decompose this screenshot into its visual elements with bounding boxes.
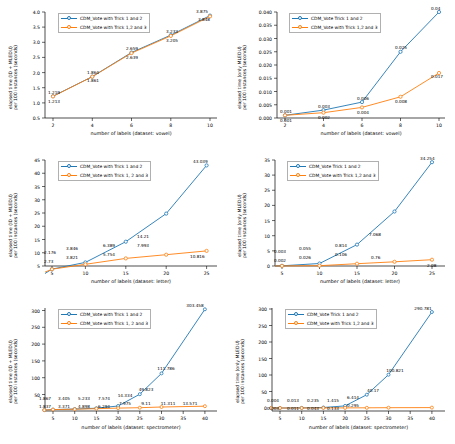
svg-text:2: 2 xyxy=(284,123,287,128)
svg-text:35: 35 xyxy=(407,416,413,421)
legend-line-icon xyxy=(290,166,306,167)
svg-text:25: 25 xyxy=(364,416,370,421)
legend-entry: CDM_Vote with Trick 1 and 2 xyxy=(59,310,150,319)
svg-text:15: 15 xyxy=(320,416,326,421)
point-label: 0.008 xyxy=(395,99,407,104)
svg-text:100: 100 xyxy=(31,376,40,381)
point-label: 13.571 xyxy=(183,401,198,406)
point-label: 11.311 xyxy=(161,401,176,406)
svg-text:300: 300 xyxy=(258,307,267,312)
svg-text:15: 15 xyxy=(123,271,129,276)
point-label: 3.846 xyxy=(66,246,78,251)
point-label: 2.659 xyxy=(126,46,138,51)
point-label: 3.405 xyxy=(58,396,70,401)
svg-text:6: 6 xyxy=(361,123,364,128)
point-label: 1.415 xyxy=(327,398,339,403)
svg-text:0.030: 0.030 xyxy=(259,37,272,42)
svg-text:4.0: 4.0 xyxy=(33,10,40,15)
svg-text:4: 4 xyxy=(322,123,325,128)
point-label: 1.219 xyxy=(48,90,60,95)
svg-text:1.5: 1.5 xyxy=(33,86,40,91)
point-label: 2.73 xyxy=(44,259,54,264)
svg-text:0.010: 0.010 xyxy=(259,90,272,95)
point-label: 14.334 xyxy=(118,393,133,398)
svg-text:200: 200 xyxy=(258,340,267,345)
svg-text:5: 5 xyxy=(279,416,282,421)
point-label: 3.205 xyxy=(166,38,178,43)
legend-label: CDM_Vote with Trick 1 and 2 xyxy=(80,164,142,169)
legend-5: CDM_Vote Trick 1 and 2 CDM_Vote with Tri… xyxy=(285,309,377,329)
svg-text:250: 250 xyxy=(31,325,40,330)
point-label: 49.823 xyxy=(139,387,154,392)
x-axis-label: number of labels (dataset: vowel) xyxy=(277,131,445,136)
point-label: 7.574 xyxy=(98,396,110,401)
legend-label: CDM_Vote with Trick 1,2 and 3 xyxy=(80,25,147,30)
point-label: 2.639 xyxy=(126,55,138,60)
point-label: 0.235 xyxy=(307,398,319,403)
legend-entry: CDM_Vote with Trick 1,2 and 3 xyxy=(290,23,380,32)
legend-line-icon xyxy=(292,18,308,19)
svg-text:35: 35 xyxy=(34,185,40,190)
y-axis-label: elapsed time (only MLEDU) per 100 instan… xyxy=(235,339,246,404)
legend-label: CDM_Vote with Trick 1 and 2 xyxy=(80,312,142,317)
svg-text:4: 4 xyxy=(91,123,94,128)
point-label: 0.001 xyxy=(280,109,292,114)
legend-label: CDM_Vote with Trick 1 and 2 xyxy=(80,16,142,21)
svg-text:8: 8 xyxy=(169,123,172,128)
point-label: 34.254 xyxy=(420,156,435,161)
svg-text:40: 40 xyxy=(429,416,435,421)
svg-text:10: 10 xyxy=(317,271,323,276)
svg-text:10: 10 xyxy=(264,234,270,239)
legend-3: CDM_Vote Trick 1 and 2 CDM_Vote with Tri… xyxy=(287,161,379,181)
point-label: 0.026 xyxy=(299,255,311,260)
point-label: 1.861 xyxy=(87,78,99,83)
svg-text:20: 20 xyxy=(163,271,169,276)
legend-line-icon xyxy=(288,314,304,315)
svg-text:45: 45 xyxy=(34,158,40,163)
legend-entry: CDM_Vote with Trick 1, 2 and 3 xyxy=(59,171,150,180)
point-label: 0.295 xyxy=(347,403,359,408)
svg-text:100: 100 xyxy=(258,373,267,378)
point-label: 0.013 xyxy=(287,398,299,403)
svg-text:5: 5 xyxy=(267,249,270,254)
legend-label: CDM_Vote with Trick 1,2 and 3 xyxy=(309,173,376,178)
svg-text:20: 20 xyxy=(264,203,270,208)
svg-text:10: 10 xyxy=(72,416,78,421)
legend-entry: CDM_Vote Trick 1 and 2 xyxy=(288,162,378,171)
svg-text:0.020: 0.020 xyxy=(259,63,272,68)
svg-text:1.0: 1.0 xyxy=(33,101,40,106)
point-label: 0.814 xyxy=(335,243,347,248)
legend-label: CDM_Vote with Trick 1,2 and 3 xyxy=(307,321,374,326)
svg-text:0.025: 0.025 xyxy=(259,50,272,55)
svg-text:20: 20 xyxy=(115,416,121,421)
panel-vowel-elapsed-total: 0.51.01.5 2.02.53.0 3.54.0 246 810 1.219… xyxy=(0,0,227,148)
svg-text:5: 5 xyxy=(52,416,55,421)
legend-entry: CDM_Vote with Trick 1 and 2 xyxy=(59,14,149,23)
legend-label: CDM_Vote with Trick 1, 2 and 3 xyxy=(80,173,148,178)
panel-spectrometer-elapsed-total: 50100150 200250300 51015 202530 3540 xyxy=(0,296,227,444)
legend-line-icon xyxy=(288,323,304,324)
svg-text:10: 10 xyxy=(82,271,88,276)
y-axis-label: elapsed time (ID + MLEDU) per 100 instan… xyxy=(8,45,19,110)
point-label: 3.875 xyxy=(196,9,208,14)
svg-text:250: 250 xyxy=(258,324,267,329)
svg-text:200: 200 xyxy=(31,342,40,347)
svg-text:300: 300 xyxy=(31,309,40,314)
svg-text:20: 20 xyxy=(392,271,398,276)
point-label: 0.055 xyxy=(299,246,311,251)
point-label: 6.414 xyxy=(347,395,359,400)
svg-text:25: 25 xyxy=(264,188,270,193)
legend-entry: CDM_Vote Trick 1 and 2 xyxy=(290,14,380,23)
point-label: 290.781 xyxy=(414,306,432,311)
point-label: 111.786 xyxy=(157,366,175,371)
x-axis-label: number of labels (dataset: letter) xyxy=(275,279,445,284)
legend-line-icon xyxy=(61,175,77,176)
legend-line-icon xyxy=(290,175,306,176)
point-label: 0.004 xyxy=(357,110,369,115)
point-label: 7.975 xyxy=(119,401,131,406)
point-label: 0.001 xyxy=(280,118,292,123)
point-label: 40.17 xyxy=(367,388,379,393)
svg-text:15: 15 xyxy=(264,219,270,224)
svg-text:10: 10 xyxy=(207,123,213,128)
legend-0: CDM_Vote with Trick 1 and 2 CDM_Vote wit… xyxy=(58,13,150,33)
